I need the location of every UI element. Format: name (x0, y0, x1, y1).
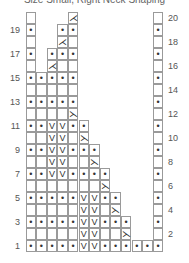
chart-cell: V (47, 156, 58, 168)
row-number: 15 (4, 72, 20, 84)
chart-cell (79, 156, 90, 168)
chart-cell: ⋋ (68, 108, 79, 120)
chart-cell: • (100, 192, 111, 204)
chart-cell (68, 204, 79, 216)
chart-cell (79, 180, 90, 192)
chart-cell (153, 132, 164, 144)
chart-cell: • (89, 168, 100, 180)
chart-cell: ⋋ (79, 132, 90, 144)
chart-cell: V (79, 204, 90, 216)
chart-cell: • (121, 216, 132, 228)
chart-cell (68, 180, 79, 192)
chart-cell: • (153, 240, 164, 252)
chart-cell: • (36, 192, 47, 204)
chart-cell: • (153, 168, 164, 180)
chart-cell (153, 108, 164, 120)
row-number: 7 (4, 168, 20, 180)
chart-cell (153, 228, 164, 240)
chart-cell: • (47, 72, 58, 84)
row-number: 14 (168, 84, 178, 96)
chart-cell: • (110, 240, 121, 252)
chart-cell: ⋋ (89, 156, 100, 168)
chart-cell: V (47, 132, 58, 144)
chart-cell: V (57, 156, 68, 168)
chart-cell: V (47, 120, 58, 132)
chart-cell (153, 180, 164, 192)
chart-cell: V (79, 216, 90, 228)
row-number: 17 (4, 48, 20, 60)
chart-cell: V (89, 228, 100, 240)
chart-cell: • (26, 240, 37, 252)
row-number: 3 (4, 216, 20, 228)
chart-cell (36, 84, 47, 96)
chart-cell: • (100, 168, 111, 180)
chart-cell (153, 204, 164, 216)
chart-cell (47, 180, 58, 192)
chart-cell (47, 84, 58, 96)
chart-cell: • (153, 216, 164, 228)
chart-cell (26, 36, 37, 48)
chart-cell (100, 228, 111, 240)
chart-cell: • (36, 96, 47, 108)
chart-cell (26, 60, 37, 72)
chart-cell: • (68, 192, 79, 204)
chart-cell (68, 84, 79, 96)
chart-cell: • (79, 144, 90, 156)
chart-cell: • (47, 48, 58, 60)
chart-cell: ⋋ (110, 204, 121, 216)
knitting-chart: •••••VV••••••VV⋋•••••VV••••VV⋋•••••VV•••… (0, 0, 189, 263)
chart-cell: • (47, 96, 58, 108)
chart-cell (57, 180, 68, 192)
chart-cell (57, 228, 68, 240)
chart-cell: • (68, 72, 79, 84)
chart-cell: • (110, 216, 121, 228)
chart-cell: • (26, 120, 37, 132)
chart-cell: • (68, 168, 79, 180)
chart-cell: V (79, 192, 90, 204)
chart-cell: V (89, 192, 100, 204)
chart-cell: V (57, 168, 68, 180)
chart-cell: • (26, 72, 37, 84)
chart-cell: V (79, 228, 90, 240)
chart-cell (153, 60, 164, 72)
row-number: 9 (4, 144, 20, 156)
chart-cell: V (89, 204, 100, 216)
chart-cell: • (36, 120, 47, 132)
chart-cell: • (79, 168, 90, 180)
chart-cell (153, 156, 164, 168)
chart-cell: • (57, 24, 68, 36)
row-number: 2 (168, 228, 173, 240)
chart-cell: • (68, 216, 79, 228)
chart-cell: V (47, 144, 58, 156)
chart-cell (68, 36, 79, 48)
chart-cell: • (153, 144, 164, 156)
row-number: 16 (168, 60, 178, 72)
row-number: 1 (4, 240, 20, 252)
chart-cell (26, 108, 37, 120)
chart-cell (47, 108, 58, 120)
chart-cell: • (68, 120, 79, 132)
chart-cell (36, 132, 47, 144)
chart-cell: • (36, 144, 47, 156)
chart-cell: • (57, 192, 68, 204)
chart-cell: • (121, 240, 132, 252)
chart-cell: • (100, 240, 111, 252)
chart-cell: • (68, 240, 79, 252)
chart-cell (26, 12, 37, 24)
chart-cell: • (79, 120, 90, 132)
chart-cell: V (89, 216, 100, 228)
chart-cell: • (100, 216, 111, 228)
chart-cell (153, 12, 164, 24)
chart-cell: ⋌ (47, 60, 58, 72)
chart-cell: • (142, 240, 153, 252)
chart-cell (47, 228, 58, 240)
chart-cell (36, 180, 47, 192)
row-number: 20 (168, 12, 178, 24)
chart-cell: • (153, 192, 164, 204)
chart-cell: • (26, 192, 37, 204)
chart-cell: • (36, 216, 47, 228)
chart-cell: • (89, 144, 100, 156)
chart-cell: • (57, 240, 68, 252)
chart-cell (68, 132, 79, 144)
row-number: 4 (168, 204, 173, 216)
